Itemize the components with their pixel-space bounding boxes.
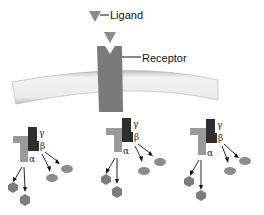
arrow [135, 146, 141, 158]
effector-hexagon-icon [20, 194, 30, 206]
beta-subunit [28, 141, 39, 151]
effector-oval-icon [154, 158, 166, 166]
arrowhead-icon [115, 179, 119, 184]
effector-hexagon-icon [101, 174, 111, 185]
arrowhead-icon [47, 166, 51, 172]
ligand-legend-icon [89, 11, 101, 22]
alpha-label: α [207, 148, 213, 158]
arrow [138, 144, 150, 153]
alpha-subunit-stem [20, 136, 28, 162]
arrow [42, 154, 49, 168]
arrow [45, 152, 57, 161]
gamma-subunit [28, 127, 37, 141]
alpha-label: α [123, 146, 129, 156]
effector-hexagon-icon [112, 186, 122, 198]
g-protein-middle: γ β α [101, 118, 166, 198]
arrow [222, 146, 227, 159]
gamma-subunit [206, 119, 215, 133]
signal-transduction-diagram: Ligand Receptor γ β α γ β α [0, 0, 264, 215]
beta-label: β [218, 133, 223, 143]
effector-hexagon-icon [8, 182, 18, 193]
effector-hexagon-icon [184, 176, 194, 187]
effector-oval-icon [239, 157, 251, 165]
arrowhead-icon [13, 177, 17, 182]
arrow [24, 167, 25, 188]
arrowhead-icon [199, 185, 203, 190]
receptor-label: Receptor [142, 52, 187, 64]
g-protein-right: γ β α [184, 119, 251, 201]
arrow [15, 167, 22, 179]
gamma-subunit [122, 118, 131, 132]
arrow [108, 158, 115, 170]
g-protein-left: γ β α [8, 126, 73, 206]
ligand-label: Ligand [110, 9, 143, 21]
arrowhead-icon [225, 157, 229, 163]
beta-label: β [40, 141, 45, 151]
receptor [97, 46, 123, 112]
gamma-label: γ [217, 120, 222, 130]
beta-subunit [206, 133, 217, 143]
effector-oval-icon [138, 167, 150, 175]
gamma-label: γ [133, 119, 138, 129]
alpha-subunit-stem [198, 128, 206, 155]
effector-oval-icon [46, 174, 58, 182]
ligand-icon [104, 32, 116, 43]
effector-oval-icon [61, 165, 73, 173]
arrowhead-icon [106, 168, 110, 174]
gamma-label: γ [39, 128, 44, 138]
alpha-label: α [29, 154, 35, 164]
beta-subunit [122, 132, 133, 142]
arrow [224, 144, 236, 155]
arrow [192, 160, 199, 172]
beta-label: β [134, 132, 139, 142]
alpha-subunit-stem [114, 128, 122, 152]
arrowhead-icon [190, 170, 194, 176]
arrowhead-icon [23, 187, 27, 192]
arrowhead-icon [139, 156, 143, 162]
effector-oval-icon [224, 167, 236, 175]
effector-hexagon-icon [196, 190, 206, 201]
